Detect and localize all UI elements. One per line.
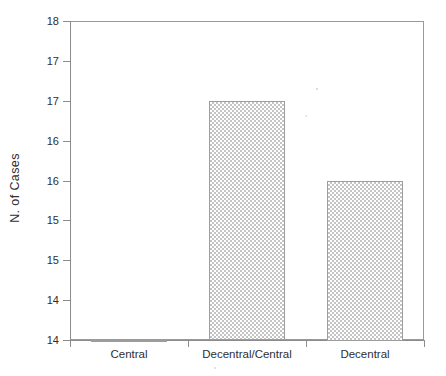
x-axis-category-label: Decentral (306, 348, 424, 360)
x-axis-category-label: Decentral/Central (188, 348, 306, 360)
x-axis-tick (424, 341, 425, 347)
y-axis-tick-label: 16 (35, 135, 59, 146)
y-axis-tick-label: 17 (35, 95, 59, 106)
y-axis-tick-label: 17 (35, 55, 59, 66)
bar (209, 101, 285, 340)
x-axis-tick (306, 341, 307, 347)
bar (91, 340, 167, 342)
y-axis-tick (63, 300, 70, 301)
y-axis-tick (63, 21, 70, 22)
y-axis-tick-labels: 181717161615151414 (33, 0, 59, 376)
y-axis-tick (63, 181, 70, 182)
y-axis-title: N. of Cases (0, 0, 30, 376)
y-axis-tick-label: 15 (35, 255, 59, 266)
y-axis-line (70, 21, 71, 341)
y-axis-tick (63, 220, 70, 221)
scan-speck (214, 367, 216, 369)
y-axis-tick-label: 16 (35, 175, 59, 186)
bar (327, 181, 403, 341)
y-axis-tick (63, 101, 70, 102)
x-axis-tick (70, 341, 71, 347)
bar-chart-figure: N. of Cases 181717161615151414 CentralDe… (0, 0, 446, 376)
x-axis-tick (188, 341, 189, 347)
y-axis-tick-label: 18 (35, 16, 59, 27)
y-axis-tick (63, 340, 70, 341)
scan-speck (305, 115, 307, 117)
y-axis-tick (63, 61, 70, 62)
scan-speck (316, 88, 318, 90)
y-axis-tick-label: 14 (35, 335, 59, 346)
y-axis-tick-label: 14 (35, 295, 59, 306)
y-axis-tick (63, 260, 70, 261)
x-axis-category-label: Central (70, 348, 188, 360)
y-axis-tick-label: 15 (35, 215, 59, 226)
y-axis-tick (63, 141, 70, 142)
